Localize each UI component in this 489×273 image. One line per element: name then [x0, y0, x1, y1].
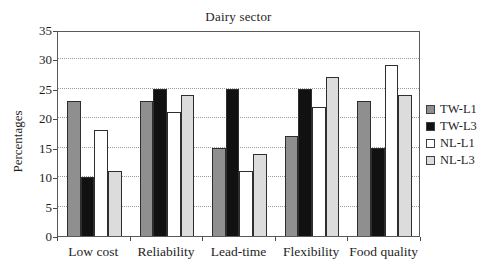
legend-label-nl-l3: NL-L3: [440, 152, 475, 169]
y-tick-mark: [53, 60, 57, 61]
legend-label-tw-l1: TW-L1: [440, 101, 477, 118]
plot-area: [57, 31, 420, 237]
y-tick-label-35: 35: [18, 23, 52, 38]
bar-group-reliability: [131, 32, 204, 236]
bar-tw-l3-food-quality: [371, 148, 385, 236]
y-tick-mark: [53, 208, 57, 209]
bar-group-flexibility: [276, 32, 349, 236]
legend-label-nl-l1: NL-L1: [440, 135, 475, 152]
bar-nl-l3-low-cost: [108, 171, 122, 236]
y-tick-mark: [53, 31, 57, 32]
legend-entry-tw-l1: TW-L1: [426, 101, 477, 118]
bar-chart: Dairy sector Percentages TW-L1TW-L3NL-L1…: [0, 0, 489, 273]
bar-tw-l1-lead-time: [212, 148, 226, 236]
x-tick-mark: [275, 237, 276, 241]
bar-nl-l1-lead-time: [239, 171, 253, 236]
bar-nl-l1-food-quality: [385, 65, 399, 236]
x-category-label-reliability: Reliability: [130, 244, 203, 260]
bar-nl-l3-food-quality: [398, 95, 412, 236]
y-tick-label-25: 25: [18, 82, 52, 97]
bar-nl-l1-reliability: [167, 112, 181, 236]
bar-tw-l1-food-quality: [357, 101, 371, 236]
legend-entry-tw-l3: TW-L3: [426, 118, 477, 135]
x-tick-mark: [420, 237, 421, 241]
x-category-label-low-cost: Low cost: [57, 244, 130, 260]
bar-group-low-cost: [58, 32, 131, 236]
bar-tw-l3-flexibility: [298, 89, 312, 236]
y-tick-mark: [53, 149, 57, 150]
bar-nl-l3-lead-time: [253, 154, 267, 236]
legend-label-tw-l3: TW-L3: [440, 118, 477, 135]
bar-tw-l3-lead-time: [226, 89, 240, 236]
x-tick-mark: [57, 237, 58, 241]
legend: TW-L1TW-L3NL-L1NL-L3: [426, 101, 477, 169]
bar-nl-l3-reliability: [181, 95, 195, 236]
bar-tw-l1-reliability: [140, 101, 154, 236]
y-tick-label-30: 30: [18, 52, 52, 67]
y-tick-mark: [53, 119, 57, 120]
x-tick-mark: [347, 237, 348, 241]
y-tick-label-5: 5: [18, 200, 52, 215]
bar-nl-l1-flexibility: [312, 107, 326, 236]
x-category-label-food-quality: Food quality: [347, 244, 420, 260]
bar-tw-l3-low-cost: [81, 177, 95, 236]
legend-entry-nl-l1: NL-L1: [426, 135, 477, 152]
y-tick-label-0: 0: [18, 229, 52, 244]
x-category-label-flexibility: Flexibility: [275, 244, 348, 260]
y-tick-mark: [53, 178, 57, 179]
x-category-label-lead-time: Lead-time: [202, 244, 275, 260]
legend-swatch-tw-l3: [426, 122, 435, 131]
y-tick-label-10: 10: [18, 170, 52, 185]
legend-swatch-nl-l3: [426, 156, 435, 165]
bar-group-food-quality: [348, 32, 421, 236]
y-tick-label-15: 15: [18, 141, 52, 156]
legend-swatch-nl-l1: [426, 139, 435, 148]
legend-entry-nl-l3: NL-L3: [426, 152, 477, 169]
bar-group-lead-time: [203, 32, 276, 236]
y-tick-label-20: 20: [18, 111, 52, 126]
x-tick-mark: [130, 237, 131, 241]
x-tick-mark: [202, 237, 203, 241]
bar-tw-l1-flexibility: [285, 136, 299, 236]
bar-tw-l1-low-cost: [67, 101, 81, 236]
bar-nl-l1-low-cost: [94, 130, 108, 236]
bar-nl-l3-flexibility: [326, 77, 340, 236]
y-tick-mark: [53, 90, 57, 91]
legend-swatch-tw-l1: [426, 105, 435, 114]
bar-tw-l3-reliability: [153, 89, 167, 236]
chart-title: Dairy sector: [57, 9, 420, 25]
